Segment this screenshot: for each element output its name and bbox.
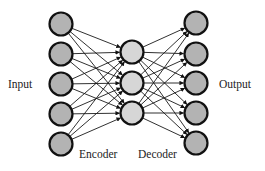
input-node-4 [50, 103, 73, 126]
output-node-4 [185, 102, 208, 125]
code-node-3 [121, 102, 144, 125]
input-node-3 [50, 73, 73, 96]
autoencoder-diagram: Input Output Encoder Decoder [0, 0, 265, 171]
decoder-label: Decoder [138, 148, 177, 160]
input-node-2 [50, 43, 73, 66]
output-label: Output [219, 78, 252, 91]
input-label: Input [8, 78, 33, 91]
connection-edge [142, 28, 184, 47]
encoder-label: Encoder [79, 148, 117, 160]
output-node-3 [185, 72, 208, 95]
connection-edge [72, 28, 121, 47]
input-node-5 [50, 133, 73, 156]
code-node-2 [121, 72, 144, 95]
output-node-2 [185, 43, 208, 66]
code-node-1 [121, 41, 144, 64]
output-node-5 [185, 132, 208, 155]
connection-edge [139, 33, 189, 103]
input-node-1 [50, 13, 73, 36]
connection-edge [142, 118, 184, 138]
connection-edge [68, 62, 124, 135]
output-node-1 [185, 12, 208, 35]
connection-edge [139, 61, 189, 132]
